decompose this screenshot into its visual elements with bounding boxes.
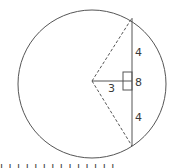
label-upper-half-chord: 4 <box>135 47 142 58</box>
label-center-distance: 3 <box>108 83 115 94</box>
label-full-chord: 8 <box>135 77 142 88</box>
diagram-canvas: 4 8 4 3 l l l l l l l l l l l l l l <box>0 0 180 168</box>
label-lower-half-chord: 4 <box>135 112 142 123</box>
circle-outline <box>18 10 166 158</box>
cut-off-caption: l l l l l l l l l l l l l l <box>0 163 180 168</box>
geometry-figure <box>0 0 180 168</box>
cut-off-caption-text: l l l l l l l l l l l l l l <box>0 163 180 168</box>
